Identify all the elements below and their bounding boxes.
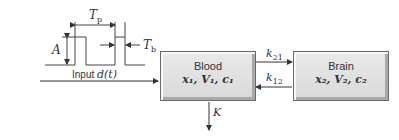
brain-title: Brain [294, 60, 388, 73]
blood-title: Blood [161, 60, 255, 73]
brain-variables: x₂, V₂, c₂ [294, 73, 388, 87]
amplitude-dimension [62, 37, 75, 64]
width-label: Tb [143, 38, 156, 54]
blood-compartment: Blood x₁, V₁, c₁ [160, 51, 256, 101]
period-label: Tp [89, 8, 102, 24]
k12-label: k12 [266, 71, 283, 86]
input-label: Input d(t) [72, 68, 117, 81]
blood-variables: x₁, V₁, c₁ [161, 73, 255, 87]
elimination-label: K [213, 106, 221, 119]
k21-label: k21 [266, 47, 283, 62]
brain-compartment: Brain x₂, V₂, c₂ [293, 51, 389, 101]
amplitude-label: A [52, 43, 61, 57]
